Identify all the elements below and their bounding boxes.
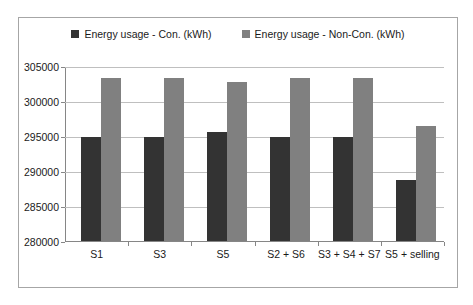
y-tick-mark [61,242,65,243]
x-tick-label: S5 [216,249,229,260]
y-tick-mark [61,102,65,103]
legend-item-con: Energy usage - Con. (kWh) [71,29,211,40]
bar [333,137,353,241]
y-tick-mark [61,207,65,208]
bar-group [333,67,373,241]
bar [101,78,121,241]
bar [290,78,310,241]
bar-group [81,67,121,241]
gridline [65,137,444,138]
y-tick-label: 290000 [24,167,59,178]
legend-label-con: Energy usage - Con. (kWh) [84,29,211,40]
bar [353,78,373,241]
legend-swatch-con [71,30,79,38]
x-tick-label: S1 [90,249,103,260]
y-tick-label: 305000 [24,62,59,73]
chart-container: Energy usage - Con. (kWh) Energy usage -… [18,17,458,288]
bar [396,180,416,241]
bar-group [270,67,310,241]
legend-swatch-noncon [242,30,250,38]
x-tick-label: S5 + selling [385,249,440,260]
x-tick-mark [444,242,445,246]
x-tick-mark [318,242,319,246]
y-tick-mark [61,137,65,138]
x-tick-label: S3 + S4 + S7 [318,249,380,260]
x-tick-mark [381,242,382,246]
y-tick-mark [61,67,65,68]
y-tick-label: 285000 [24,202,59,213]
gridline [65,172,444,173]
bar [416,126,436,241]
bar [81,137,101,241]
bar [207,132,227,241]
gridline [65,207,444,208]
x-tick-mark [191,242,192,246]
bar-group [144,67,184,241]
y-tick-label: 280000 [24,237,59,248]
bar [164,78,184,241]
legend-item-noncon: Energy usage - Non-Con. (kWh) [242,29,405,40]
plot-area: 280000285000290000295000300000305000 S1S… [65,67,444,242]
bar [270,137,290,241]
x-tick-label: S3 [153,249,166,260]
bar-group [396,67,436,241]
y-tick-label: 295000 [24,132,59,143]
bar [227,82,247,241]
legend-label-noncon: Energy usage - Non-Con. (kWh) [255,29,405,40]
y-tick-label: 300000 [24,97,59,108]
x-tick-label: S2 + S6 [267,249,305,260]
bar-group [207,67,247,241]
x-tick-mark [255,242,256,246]
y-tick-mark [61,172,65,173]
bar [144,137,164,241]
y-axis-line [65,67,66,242]
x-tick-mark [128,242,129,246]
gridline [65,67,444,68]
chart-legend: Energy usage - Con. (kWh) Energy usage -… [19,29,457,40]
gridline [65,102,444,103]
